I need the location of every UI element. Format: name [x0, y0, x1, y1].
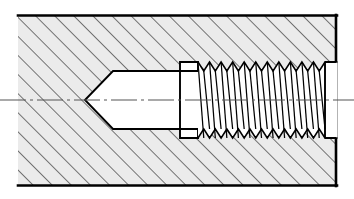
section-view-svg	[0, 0, 354, 199]
relief-upper	[180, 62, 198, 71]
technical-drawing-canvas	[0, 0, 354, 199]
relief-lower	[180, 129, 198, 138]
